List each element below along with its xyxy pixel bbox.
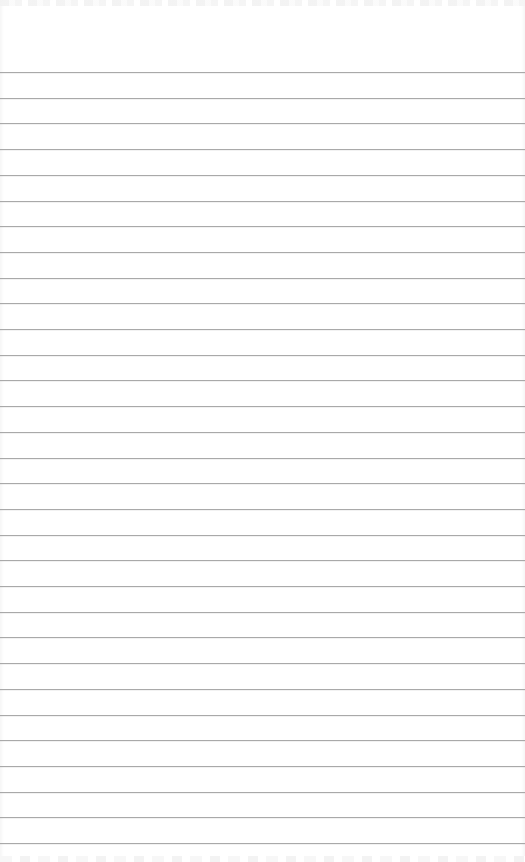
ruled-line bbox=[0, 329, 525, 330]
ruled-line bbox=[0, 303, 525, 304]
ruled-line bbox=[0, 715, 525, 716]
ruled-line bbox=[0, 278, 525, 279]
ruled-line bbox=[0, 406, 525, 407]
ruled-line bbox=[0, 843, 525, 844]
ruled-line bbox=[0, 380, 525, 381]
ruled-line bbox=[0, 766, 525, 767]
ruled-line bbox=[0, 689, 525, 690]
ruled-line bbox=[0, 226, 525, 227]
ruled-lines bbox=[0, 0, 525, 862]
ruled-line bbox=[0, 792, 525, 793]
ruled-line bbox=[0, 637, 525, 638]
notepad-page bbox=[0, 0, 525, 862]
ruled-line bbox=[0, 175, 525, 176]
ruled-line bbox=[0, 98, 525, 99]
ruled-line bbox=[0, 72, 525, 73]
ruled-line bbox=[0, 663, 525, 664]
ruled-line bbox=[0, 586, 525, 587]
ruled-line bbox=[0, 458, 525, 459]
ruled-line bbox=[0, 535, 525, 536]
ruled-line bbox=[0, 817, 525, 818]
ruled-line bbox=[0, 149, 525, 150]
ruled-line bbox=[0, 201, 525, 202]
ruled-line bbox=[0, 432, 525, 433]
ruled-line bbox=[0, 252, 525, 253]
ruled-line bbox=[0, 560, 525, 561]
bottom-edge bbox=[0, 856, 525, 862]
ruled-line bbox=[0, 740, 525, 741]
ruled-line bbox=[0, 612, 525, 613]
ruled-line bbox=[0, 355, 525, 356]
ruled-line bbox=[0, 123, 525, 124]
ruled-line bbox=[0, 483, 525, 484]
ruled-line bbox=[0, 509, 525, 510]
